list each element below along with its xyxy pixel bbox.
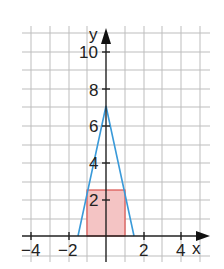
x-tick-neg2: −2 (58, 241, 77, 260)
x-axis-label: x (192, 239, 201, 258)
coordinate-plane: y x 10 8 6 4 2 −4 −2 2 4 (0, 0, 224, 269)
y-tick-8: 8 (89, 81, 98, 100)
x-tick-2: 2 (139, 241, 148, 260)
x-tick-4: 4 (176, 241, 185, 260)
y-axis-label: y (89, 25, 98, 44)
y-tick-2: 2 (89, 191, 98, 210)
x-tick-neg4: −4 (21, 241, 40, 260)
y-tick-6: 6 (89, 117, 98, 136)
y-tick-4: 4 (89, 154, 98, 173)
y-axis-arrow-icon (101, 28, 111, 44)
y-tick-10: 10 (79, 43, 98, 62)
